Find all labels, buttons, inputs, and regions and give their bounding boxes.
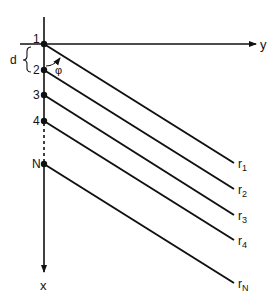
- ray-label: r3: [238, 209, 247, 225]
- ray-r1: [44, 44, 234, 163]
- ray-r2: [44, 70, 234, 189]
- angle-label: φ: [55, 64, 62, 76]
- ray-label: r1: [238, 157, 247, 173]
- x-axis-label: x: [40, 278, 47, 293]
- spacing-label: d: [10, 53, 17, 67]
- ray-rN: [44, 164, 234, 283]
- ray-r3: [44, 95, 234, 215]
- element-label: N: [32, 157, 41, 171]
- element-label: 1: [33, 32, 40, 46]
- element-label: 2: [33, 63, 40, 77]
- ray-label: r2: [238, 183, 247, 199]
- ray-label: rN: [238, 277, 249, 293]
- ray-r4: [44, 121, 234, 240]
- array-element-2: 2 r2: [33, 63, 247, 199]
- spacing-brace-icon: [23, 47, 31, 72]
- array-element-3: 3 r3: [33, 88, 247, 225]
- y-axis-label: y: [260, 37, 267, 52]
- ray-label: r4: [238, 234, 247, 250]
- element-label: 4: [33, 114, 40, 128]
- array-element-1: 1 r1: [33, 32, 247, 173]
- array-element-4: 4 r4: [33, 114, 247, 250]
- array-geometry-diagram: y x d φ 1 r1 2 r2 3 r3 4 r4 N: [0, 0, 273, 299]
- element-label: 3: [33, 88, 40, 102]
